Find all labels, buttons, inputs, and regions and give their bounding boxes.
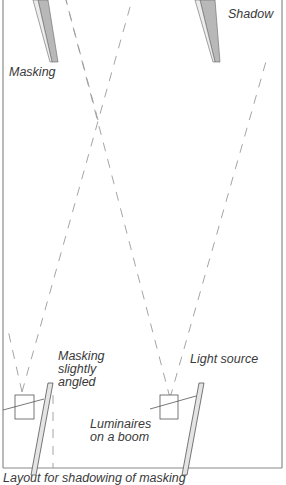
label-masking-slightly-angled: Masking slightly angled [58,350,105,389]
label-shadow: Shadow [228,8,273,21]
shadow-top-right [195,0,220,62]
label-masking-top: Masking [9,66,56,79]
luminaire-left [3,395,44,419]
masking-top-left [33,0,58,62]
label-luminaires-on-a-boom: Luminaires on a boom [90,418,151,444]
label-light-source: Light source [190,353,258,366]
figure-caption: Layout for shadowing of masking [3,471,186,485]
luminaire-right [150,395,196,419]
